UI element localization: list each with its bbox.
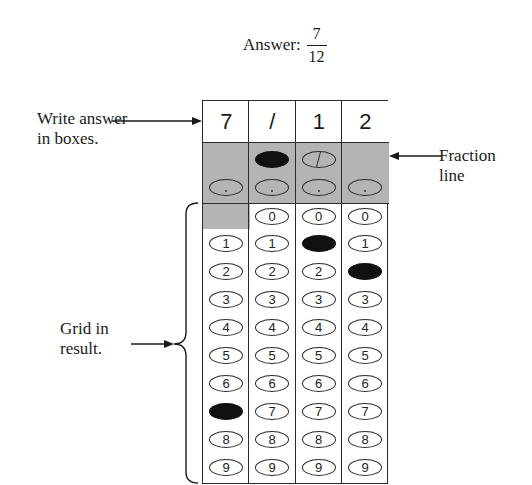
digit-bubble-3[interactable]: 3 <box>302 291 336 308</box>
zero-blank <box>203 204 250 229</box>
digit-bubble-5[interactable]: 5 <box>255 347 289 364</box>
digit-bubble-4[interactable]: 4 <box>348 319 382 336</box>
grid-column-1: 7123456789 <box>203 101 250 483</box>
digit-bubble-7[interactable]: 7 <box>348 403 382 420</box>
digit-bubble-9[interactable]: 9 <box>209 459 243 476</box>
digit-bubble-6[interactable]: 6 <box>348 375 382 392</box>
decimal-bubble[interactable] <box>302 179 336 196</box>
digit-bubble-9[interactable]: 9 <box>348 459 382 476</box>
digit-bubble-0[interactable]: 0 <box>348 208 382 225</box>
digit-bubble-5[interactable]: 5 <box>348 347 382 364</box>
digit-bubble-8[interactable]: 8 <box>209 431 243 448</box>
grid-result-label: Grid in result. <box>60 319 109 359</box>
decimal-point-icon <box>364 190 366 192</box>
fraction-line-line2: line <box>439 166 496 186</box>
grid-result-line1: Grid in <box>60 319 109 339</box>
digit-bubble-9[interactable]: 9 <box>255 459 289 476</box>
answer-header: Answer: 7 12 <box>243 20 325 70</box>
grid-result-line2: result. <box>60 339 109 359</box>
digit-bubble-7[interactable]: 7 <box>255 403 289 420</box>
write-answer-line1: Write answer <box>37 109 127 129</box>
digit-bubble-0[interactable]: 0 <box>255 208 289 225</box>
digit-bubble-2[interactable]: 2 <box>255 263 289 280</box>
digit-bubble-8[interactable]: 8 <box>348 431 382 448</box>
digit-bubble-5[interactable]: 5 <box>302 347 336 364</box>
digit-bubble-3[interactable]: 3 <box>348 291 382 308</box>
decimal-point-icon <box>318 190 320 192</box>
grid-column-2: /0123456789 <box>248 101 296 483</box>
write-answer-label: Write answer in boxes. <box>37 109 127 149</box>
fraction-decimal-area <box>296 143 343 204</box>
answer-fraction: 7 12 <box>309 25 325 66</box>
decimal-point-icon <box>271 190 273 192</box>
digit-bubble-2[interactable]: 2 <box>348 263 382 280</box>
digit-bubble-0[interactable]: 0 <box>302 208 336 225</box>
answer-denominator: 12 <box>309 46 325 66</box>
digit-bubble-7[interactable]: 7 <box>302 403 336 420</box>
answer-box[interactable]: 7 <box>203 101 250 143</box>
digit-bubble-5[interactable]: 5 <box>209 347 243 364</box>
fraction-decimal-area <box>203 143 250 204</box>
answer-label: Answer: <box>243 35 301 55</box>
fraction-decimal-area <box>342 143 389 204</box>
answer-numerator: 7 <box>307 25 327 46</box>
decimal-point-icon <box>225 190 227 192</box>
digit-bubble-2[interactable]: 2 <box>209 263 243 280</box>
fraction-bubble[interactable] <box>255 151 289 168</box>
digit-bubble-6[interactable]: 6 <box>302 375 336 392</box>
answer-grid: 7123456789/01234567891012345678920123456… <box>202 100 388 484</box>
brace-icon <box>174 203 198 483</box>
digit-bubble-1[interactable]: 1 <box>255 235 289 252</box>
digit-bubble-1[interactable]: 1 <box>209 235 243 252</box>
slash-icon <box>316 152 321 167</box>
digit-bubble-2[interactable]: 2 <box>302 263 336 280</box>
digit-bubble-4[interactable]: 4 <box>302 319 336 336</box>
fraction-line-line1: Fraction <box>439 146 496 166</box>
digit-bubble-1[interactable]: 1 <box>302 235 336 252</box>
write-answer-line2: in boxes. <box>37 129 127 149</box>
digit-bubble-8[interactable]: 8 <box>302 431 336 448</box>
fraction-decimal-area <box>249 143 296 204</box>
grid-column-4: 20123456789 <box>341 101 389 483</box>
digit-bubble-4[interactable]: 4 <box>255 319 289 336</box>
answer-box[interactable]: 1 <box>296 101 343 143</box>
digit-bubble-9[interactable]: 9 <box>302 459 336 476</box>
digit-bubble-3[interactable]: 3 <box>255 291 289 308</box>
fraction-bubble[interactable] <box>302 151 336 168</box>
digit-bubble-1[interactable]: 1 <box>348 235 382 252</box>
decimal-bubble[interactable] <box>209 179 243 196</box>
answer-box[interactable]: 2 <box>342 101 389 143</box>
digit-bubble-3[interactable]: 3 <box>209 291 243 308</box>
digit-bubble-4[interactable]: 4 <box>209 319 243 336</box>
fraction-line-label: Fraction line <box>439 146 496 186</box>
digit-bubble-6[interactable]: 6 <box>255 375 289 392</box>
grid-column-3: 10123456789 <box>295 101 343 483</box>
answer-box[interactable]: / <box>249 101 296 143</box>
digit-bubble-8[interactable]: 8 <box>255 431 289 448</box>
decimal-bubble[interactable] <box>255 179 289 196</box>
digit-bubble-6[interactable]: 6 <box>209 375 243 392</box>
decimal-bubble[interactable] <box>348 179 382 196</box>
digit-bubble-7[interactable]: 7 <box>209 403 243 420</box>
